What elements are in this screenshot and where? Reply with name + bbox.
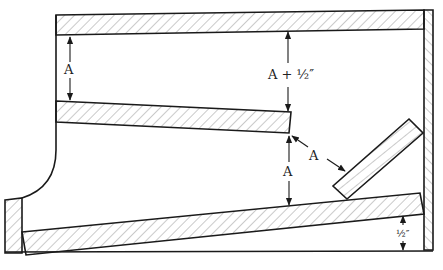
label-upper-right-gap: A + ½″ [267,67,314,82]
dimension-diagonal-gap: A [292,136,345,171]
dimension-bottom-right-gap: ½″ [396,216,410,250]
middle-shelf [56,101,291,133]
dimension-top-gap: A [63,37,74,100]
top-shelf [56,10,424,35]
angled-board [333,119,423,199]
left-wall-curve [22,15,56,198]
bottom-board [22,193,424,255]
right-wall [424,10,433,250]
dimension-lower-middle-gap: A [282,136,293,205]
dimension-upper-right-gap: A + ½″ [267,32,314,111]
label-diagonal-gap: A [308,148,319,163]
left-post [5,198,22,253]
label-bottom-right-gap: ½″ [396,228,410,239]
label-top-gap: A [63,62,74,77]
shelf-section-diagram: A A + ½″ A A ½″ [0,0,443,270]
label-lower-middle-gap: A [282,164,293,179]
base-line [5,251,433,252]
